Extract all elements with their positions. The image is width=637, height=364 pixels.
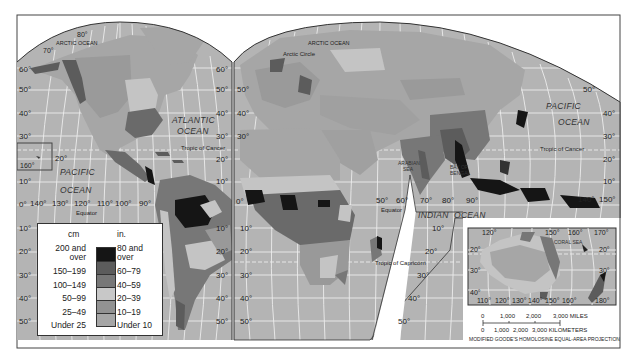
equator-label-east: Equator [381, 207, 402, 213]
inset-lon-label: 150° [545, 297, 559, 304]
pacific-ocean-label-west-2: OCEAN [60, 186, 92, 195]
lat-label: 20° [19, 248, 31, 256]
lat-label: 40° [216, 295, 228, 303]
lat-label: 30° [19, 272, 31, 280]
inset-lon-label: 120° [482, 229, 496, 236]
lat-label: 20° [603, 156, 615, 164]
legend-swatch-50-99 [96, 287, 116, 301]
lon-label: 140° [30, 200, 47, 208]
legend-swatch-25-49 [96, 300, 116, 314]
lon-label: 120° [74, 200, 91, 208]
scale-miles-tick: 2,000 [526, 313, 541, 319]
lon-label: 50° [376, 197, 388, 205]
inset-lon-label: 180° [595, 297, 609, 304]
lon-label: 150° [599, 196, 616, 204]
lon-label: 80° [442, 197, 454, 205]
legend-in-value: 60–79 [117, 267, 141, 276]
lat-label: 20° [216, 248, 228, 256]
legend-in-value: 20–39 [117, 294, 141, 303]
lat-label: 10° [19, 225, 31, 233]
lon-label: 90° [466, 197, 478, 205]
bay-of-bengal-label-2: BENGAL [450, 171, 470, 176]
legend-in-value: 10–19 [117, 308, 141, 317]
tropic-of-capricorn-label: Tropic of Capricorn [375, 260, 426, 266]
lat-80-label: 80° [77, 31, 88, 38]
scale-km-tick: 3,000 KILOMETERS [532, 327, 587, 333]
lat-label: 50° [237, 86, 249, 94]
legend-swatch-200-over [96, 247, 116, 262]
inset-lon-label: 170° [594, 229, 608, 236]
lat-label: 10° [603, 178, 615, 186]
lat-label: 40° [237, 110, 249, 118]
lat-label: 10° [216, 178, 228, 186]
scale-miles-tick: 1,000 [500, 313, 515, 319]
lat-70-label: 70° [43, 47, 54, 54]
lat-label: 40° [603, 110, 615, 118]
lat-label: 30° [417, 272, 429, 280]
lat-label: 20° [216, 156, 228, 164]
lat-label: 60° [19, 66, 31, 74]
lat-label: 30° [19, 133, 31, 141]
lat-label: 40° [240, 295, 252, 303]
legend-cm-value: 100–149 [53, 281, 86, 290]
lon-label: 100° [115, 200, 132, 208]
inset-lat-label: 30° [470, 267, 481, 274]
legend-cm-value: 25–49 [62, 308, 86, 317]
indian-ocean-label-2: OCEAN [454, 211, 486, 220]
legend-in-value: over [117, 253, 134, 262]
equator-label-west: Equator [76, 210, 97, 216]
inset-lon-label: 160° [568, 229, 582, 236]
precipitation-legend: cm in. 200 and over 150–199 100–149 50–9… [37, 223, 163, 336]
legend-cm-header: cm [68, 229, 79, 239]
lat-label: 0° [19, 201, 27, 209]
hawaii-lon-label: 160° [20, 162, 34, 169]
arabian-sea-label-2: SEA [403, 167, 413, 172]
lat-label: 10° [216, 225, 228, 233]
inset-lon-label: 160° [562, 297, 576, 304]
legend-swatch-100-149 [96, 274, 116, 288]
lon-label: 110° [97, 200, 113, 208]
lat-label: 50° [216, 318, 228, 326]
inset-lon-label: 150° [545, 229, 559, 236]
lat-label: 40° [408, 295, 420, 303]
lon-label: 90° [139, 200, 151, 208]
legend-cm-value: over [69, 253, 86, 262]
lat-label: 40° [216, 110, 228, 118]
atlantic-ocean-label-2: OCEAN [177, 127, 209, 136]
lat-label: 50° [583, 86, 595, 94]
hawaii-lat-label: 20° [55, 155, 67, 163]
indian-ocean-label: INDIAN [418, 211, 449, 220]
arctic-ocean-label-west: ARCTIC OCEAN [56, 41, 98, 47]
lon-label: 60° [396, 197, 408, 205]
scale-km-tick: 0 [481, 327, 484, 333]
inset-lon-label: 140° [528, 297, 542, 304]
pacific-ocean-label-east: PACIFIC [546, 102, 581, 111]
legend-swatch-under-25 [96, 313, 116, 327]
legend-in-value: 40–59 [117, 281, 141, 290]
scale-km-tick: 1,000 [494, 327, 509, 333]
legend-cm-value: 150–199 [53, 267, 86, 276]
lat-label: 10° [432, 225, 444, 233]
coral-sea-label: CORAL SEA [554, 240, 582, 245]
australia-inset [468, 228, 616, 305]
prime-meridian-label: 0° [236, 198, 244, 206]
legend-cm-value: 50–99 [62, 294, 86, 303]
scale-miles-tick: 3,000 MILES [553, 313, 588, 319]
legend-swatch-150-199 [96, 261, 116, 275]
scale-miles-tick: 0 [481, 313, 484, 319]
inset-lon-label: 130° [512, 297, 526, 304]
lat-label: 50° [240, 318, 252, 326]
lat-label: 50° [216, 86, 228, 94]
lat-label: 50° [19, 86, 31, 94]
pacific-ocean-label-east-2: OCEAN [558, 118, 590, 127]
lat-label: 40° [19, 110, 31, 118]
lat-label: 30° [603, 133, 615, 141]
pacific-ocean-label-west: PACIFIC [60, 168, 95, 177]
lat-label: 30° [216, 133, 228, 141]
lat-label: 10° [19, 178, 31, 186]
lat-label: 20° [425, 248, 437, 256]
inset-lat-label: 40° [470, 289, 481, 296]
lat-label: 50° [398, 318, 410, 326]
lat-label: 20° [240, 248, 252, 256]
scale-km-tick: 2,000 [513, 327, 528, 333]
